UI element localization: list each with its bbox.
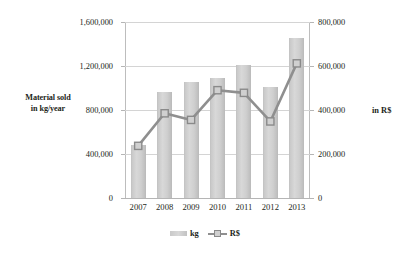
- line-marker-2007: [135, 142, 142, 149]
- y-axis-title-left-line2: in kg/year: [8, 103, 88, 114]
- line-marker-2012: [267, 118, 274, 125]
- y-axis-title-right: in R$: [372, 106, 391, 115]
- tick-left: [121, 198, 125, 199]
- chart-container: Material sold in kg/year in R$ 0400,0008…: [0, 0, 410, 256]
- line-marker-2008: [161, 110, 168, 117]
- y-tick-label-right: 200,000: [318, 150, 345, 159]
- x-tick-label-2013: 2013: [282, 202, 312, 212]
- tick-left: [121, 66, 125, 67]
- tick-right: [310, 154, 314, 155]
- legend-item-rs[interactable]: R$: [208, 229, 240, 238]
- y-tick-label-right: 400,000: [318, 106, 345, 115]
- y-tick-label-left: 1,600,000: [80, 18, 114, 27]
- tick-right: [310, 22, 314, 23]
- plot-area: [125, 22, 310, 198]
- chart-legend: kg R$: [0, 229, 410, 238]
- legend-label-kg: kg: [190, 229, 199, 238]
- tick-right: [310, 198, 314, 199]
- y-tick-label-left: 400,000: [86, 150, 113, 159]
- tick-left: [121, 22, 125, 23]
- line-path-rs: [138, 63, 297, 146]
- tick-left: [121, 154, 125, 155]
- y-tick-label-left: 1,200,000: [80, 62, 114, 71]
- y-tick-label-right: 600,000: [318, 62, 345, 71]
- tick-left: [121, 110, 125, 111]
- tick-right: [310, 66, 314, 67]
- legend-line-swatch-icon: [208, 230, 227, 237]
- line-series-rs: [125, 22, 310, 198]
- legend-bar-swatch-icon: [170, 231, 187, 236]
- y-tick-label-left: 800,000: [86, 106, 113, 115]
- legend-item-kg[interactable]: kg: [170, 229, 199, 238]
- y-tick-label-right: 0: [318, 194, 322, 203]
- y-axis-title-left-line1: Material sold: [8, 92, 88, 103]
- line-marker-2011: [240, 89, 247, 96]
- tick-right: [310, 110, 314, 111]
- legend-label-rs: R$: [230, 229, 240, 238]
- line-marker-2009: [187, 116, 194, 123]
- y-axis-title-left: Material sold in kg/year: [8, 92, 88, 114]
- y-tick-label-right: 800,000: [318, 18, 345, 27]
- y-tick-label-left: 0: [109, 194, 113, 203]
- line-marker-2010: [214, 87, 221, 94]
- gridline: [125, 198, 310, 199]
- line-marker-2013: [293, 60, 300, 67]
